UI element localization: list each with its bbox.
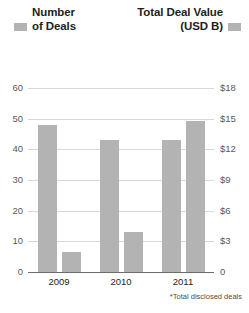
plot-area: 01020304050600$3$6$9$12$15$18	[28, 88, 214, 272]
gridline	[28, 88, 214, 89]
y-axis-tick-right: $9	[220, 175, 231, 184]
y-axis-tick-right: $6	[220, 206, 231, 215]
bar-2011-value	[186, 121, 205, 272]
y-axis-tick-right: $12	[220, 144, 236, 153]
y-axis-tick-left: 10	[12, 236, 23, 245]
y-axis-tick-right: $3	[220, 236, 231, 245]
x-axis-label-2011: 2011	[152, 276, 214, 287]
footnote: *Total disclosed deals	[170, 292, 242, 301]
bar-2010-deals	[100, 140, 119, 272]
y-axis-tick-left: 50	[12, 114, 23, 123]
deals-and-value-bar-chart: Number of Deals Total Deal Value (USD B)…	[0, 0, 249, 313]
bar-2010-value	[124, 232, 143, 272]
number-of-deals-swatch	[14, 23, 27, 31]
y-axis-tick-right: $15	[220, 114, 236, 123]
bar-2009-value	[62, 252, 81, 272]
total-deal-value-swatch	[228, 23, 241, 31]
bar-2011-deals	[162, 140, 181, 272]
x-axis-label-2009: 2009	[28, 276, 90, 287]
bar-2009-deals	[38, 125, 57, 272]
legend-item-number-of-deals: Number of Deals	[14, 6, 76, 33]
y-axis-tick-left: 20	[12, 206, 23, 215]
y-axis-tick-left: 60	[12, 83, 23, 92]
y-axis-tick-left: 40	[12, 144, 23, 153]
legend-label-total-deal-value: Total Deal Value (USD B)	[137, 6, 223, 33]
gridline	[28, 119, 214, 120]
x-axis-label-2010: 2010	[90, 276, 152, 287]
chart-legend: Number of Deals Total Deal Value (USD B)	[0, 6, 249, 46]
legend-label-line-2: (USD B)	[137, 20, 223, 34]
legend-label-line-1: Total Deal Value	[137, 6, 223, 20]
y-axis-tick-right: $18	[220, 83, 236, 92]
y-axis-tick-left: 30	[12, 175, 23, 184]
legend-label-number-of-deals: Number of Deals	[32, 6, 76, 33]
y-axis-tick-left: 0	[18, 267, 23, 276]
legend-label-line-2: of Deals	[32, 20, 76, 34]
y-axis-tick-right: 0	[220, 267, 225, 276]
legend-label-line-1: Number	[32, 6, 76, 20]
legend-item-total-deal-value: Total Deal Value (USD B)	[137, 6, 241, 33]
